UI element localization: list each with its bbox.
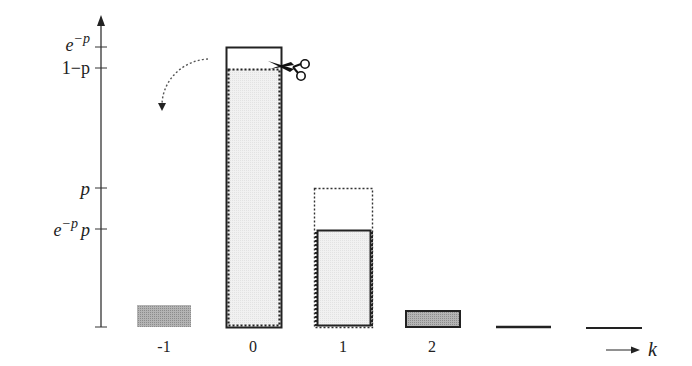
y-axis bbox=[95, 15, 107, 327]
y-label-1-minus-p: 1−p bbox=[62, 58, 90, 78]
probability-bar-diagram: e−p 1−p p e−pp -1 0 1 bbox=[0, 0, 692, 366]
y-label-p: p bbox=[79, 178, 91, 199]
k-direction-arrow: k bbox=[606, 338, 658, 360]
right-arrow-icon bbox=[631, 347, 640, 354]
x-label-1: 1 bbox=[339, 338, 347, 355]
x-label-minus-1: -1 bbox=[157, 338, 170, 355]
bar-k-2 bbox=[406, 311, 460, 327]
x-label-2: 2 bbox=[428, 338, 436, 355]
bar-k-minus-1 bbox=[137, 305, 191, 327]
y-label-e-minus-p: e−p bbox=[66, 31, 90, 55]
y-axis-arrow-icon bbox=[97, 15, 105, 26]
y-label-e-minus-p-times-p: e−pp bbox=[54, 216, 90, 240]
bar-0-inner-fill bbox=[228, 69, 280, 326]
bar-k-0 bbox=[227, 48, 282, 328]
y-tick-labels: e−p 1−p p e−pp bbox=[54, 31, 90, 240]
bar-k-1 bbox=[315, 189, 373, 328]
x-category-labels: -1 0 1 2 bbox=[157, 338, 436, 355]
curved-dotted-arrow-icon bbox=[158, 59, 208, 111]
bar-1-inner-fill bbox=[317, 230, 370, 326]
k-axis-label: k bbox=[648, 338, 658, 360]
x-label-0: 0 bbox=[249, 338, 257, 355]
